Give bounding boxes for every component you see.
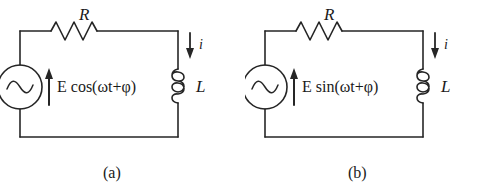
source-voltage-arrow-head bbox=[290, 68, 298, 79]
inductor-label: L bbox=[196, 78, 205, 95]
current-label: i bbox=[444, 38, 448, 52]
panel-caption-a: (a) bbox=[103, 165, 121, 181]
circuit-schematic-a bbox=[0, 0, 245, 196]
circuit-schematic-b bbox=[245, 0, 490, 196]
ac-source-circle bbox=[0, 65, 42, 109]
resistor-label: R bbox=[79, 6, 89, 23]
source-voltage-arrow-head bbox=[45, 68, 53, 79]
resistor-symbol bbox=[296, 22, 342, 40]
source-expression-label: E sin(ωt+φ) bbox=[302, 79, 378, 95]
ac-source-sine-glyph bbox=[252, 81, 278, 93]
inductor-symbol bbox=[172, 69, 184, 103]
current-label: i bbox=[199, 38, 203, 52]
ac-source-circle bbox=[245, 65, 287, 109]
resistor-symbol bbox=[51, 22, 97, 40]
current-arrow-head bbox=[186, 48, 194, 59]
inductor-label: L bbox=[441, 78, 450, 95]
inductor-symbol bbox=[417, 69, 429, 103]
circuit-panel-a: R L i E cos(ωt+φ) (a) bbox=[0, 0, 245, 196]
rl-circuit-figure: R L i E cos(ωt+φ) (a) bbox=[0, 0, 490, 196]
resistor-label: R bbox=[324, 6, 334, 23]
ac-source-sine-glyph bbox=[7, 81, 33, 93]
current-arrow-head bbox=[431, 48, 439, 59]
source-expression-label: E cos(ωt+φ) bbox=[57, 79, 136, 95]
circuit-panel-b: R L i E sin(ωt+φ) (b) bbox=[245, 0, 490, 196]
panel-caption-b: (b) bbox=[348, 165, 367, 181]
